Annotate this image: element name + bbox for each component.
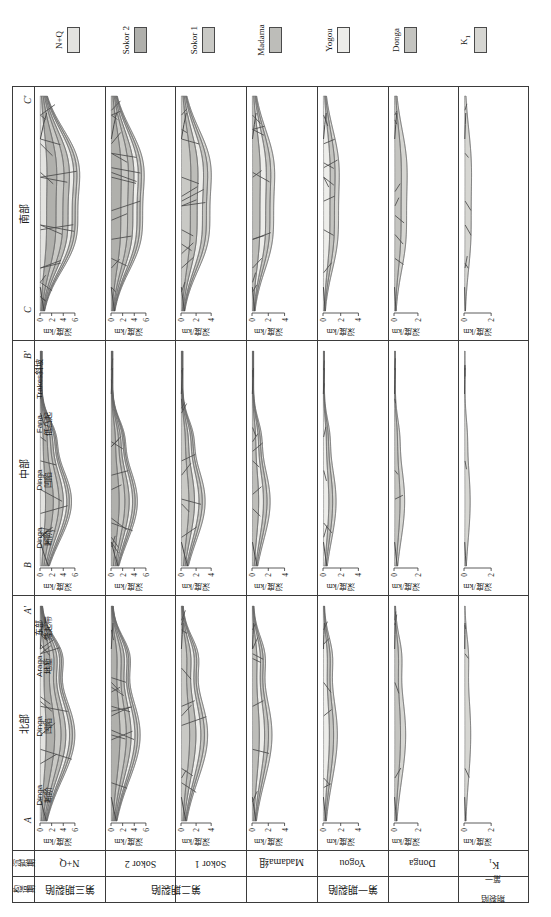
panel-svg: 024深度/km	[246, 86, 317, 341]
structural-label-middle-2: Fana低凸起	[36, 402, 54, 446]
depth-axis-title: 深度/km	[182, 327, 211, 337]
depth-axis-tick-label: 4	[208, 573, 217, 577]
depth-axis-title: 深度/km	[326, 837, 355, 847]
structural-label-middle-1: Dinga凹陷	[36, 458, 54, 502]
sed-period-label-4: Yogou	[317, 851, 388, 877]
panel-svg: 024深度/km	[317, 86, 388, 341]
panel-svg: 024深度/km	[317, 596, 388, 851]
legend-swatch-2	[202, 27, 215, 53]
corner-header-sedimentary: 沉积期	[12, 851, 34, 877]
sed-period-label-3: Madama组	[246, 851, 317, 877]
depth-axis-title: 深度/km	[253, 582, 282, 592]
legend-swatch-3	[269, 27, 282, 53]
depth-axis-tick-label: 6	[142, 318, 151, 322]
depth-axis-tick-label: 2	[118, 573, 127, 577]
legend-label-4: Yogou	[324, 28, 334, 52]
depth-axis-tick-label: 2	[414, 573, 423, 577]
legend-swatch-6	[474, 27, 487, 53]
panel-svg: 024深度/km	[317, 341, 388, 596]
legend-item-5: Donga	[391, 27, 417, 53]
depth-axis-tick-label: 2	[193, 828, 202, 832]
sed-period-label-0: N+Q	[34, 851, 105, 877]
depth-axis-tick-label: 0	[177, 573, 186, 577]
depth-axis-title: 深度/km	[463, 582, 492, 592]
legend-label-0: N+Q	[54, 31, 64, 49]
depth-axis-tick-label: 0	[36, 573, 45, 577]
depth-axis-tick-label: 2	[414, 828, 423, 832]
depth-axis-tick-label: 0	[390, 828, 399, 832]
depth-axis-title: 深度/km	[326, 327, 355, 337]
depth-axis-tick-label: 4	[130, 828, 139, 832]
depth-axis-title: 深度/km	[463, 837, 492, 847]
depth-axis-tick-label: 0	[248, 318, 257, 322]
depth-axis-title: 深度/km	[391, 837, 420, 847]
depth-axis-title: 深度/km	[113, 582, 142, 592]
panel-svg: 02深度/km	[388, 596, 459, 851]
depth-axis-tick-label: 2	[487, 573, 496, 577]
depth-axis-tick-label: 4	[281, 828, 290, 832]
panel-svg: 024深度/km	[175, 596, 246, 851]
panel-svg: 02深度/km	[458, 341, 529, 596]
depth-axis-tick-label: 2	[118, 318, 127, 322]
panel-middle-6: 02深度/km	[458, 341, 529, 596]
depth-axis-tick-label: 2	[48, 573, 57, 577]
structural-label-north-2: Araga地堑	[36, 644, 54, 688]
depth-axis-tick-label: 6	[142, 828, 151, 832]
depth-axis-tick-label: 0	[107, 318, 116, 322]
depth-axis-tick-label: 2	[487, 828, 496, 832]
tect-period-label-1: 第二期裂陷	[105, 877, 246, 903]
depth-axis-tick-label: 2	[48, 318, 57, 322]
depth-axis-tick-label: 2	[264, 828, 273, 832]
depth-axis-tick-label: 4	[281, 318, 290, 322]
legend-label-5: Donga	[391, 28, 401, 52]
panel-north-4: 024深度/km	[317, 596, 388, 851]
depth-axis-tick-label: 0	[36, 828, 45, 832]
depth-axis-tick-label: 2	[337, 828, 346, 832]
structural-label-middle-0: Dinga断阶	[36, 516, 54, 560]
depth-axis-tick-label: 6	[71, 573, 80, 577]
depth-axis-tick-label: 0	[248, 828, 257, 832]
panel-svg: 02深度/km	[458, 596, 529, 851]
depth-axis-tick-label: 6	[71, 828, 80, 832]
structural-label-north-3: 东部隆起带	[36, 606, 54, 650]
legend-swatch-4	[337, 27, 350, 53]
panel-south-2: 024深度/km	[175, 86, 246, 341]
depth-axis-title: 深度/km	[182, 582, 211, 592]
tect-period-label-3: 期裂陷第一	[458, 877, 529, 903]
depth-axis-tick-label: 4	[281, 573, 290, 577]
depth-axis-tick-label: 0	[248, 573, 257, 577]
depth-axis-tick-label: 2	[337, 573, 346, 577]
structural-label-north-1: Dinga凹陷	[36, 704, 54, 748]
panel-svg: 0246深度/km	[105, 596, 176, 851]
depth-axis-title: 深度/km	[42, 582, 71, 592]
geological-cross-section-figure: 0246深度/km0246深度/km024深度/km024深度/km024深度/…	[0, 0, 551, 917]
depth-axis-title: 深度/km	[253, 837, 282, 847]
depth-axis-tick-label: 0	[107, 828, 116, 832]
panel-svg: 024深度/km	[246, 596, 317, 851]
panel-south-1: 0246深度/km	[105, 86, 176, 341]
panel-south-3: 024深度/km	[246, 86, 317, 341]
depth-axis-tick-label: 2	[193, 573, 202, 577]
depth-axis-tick-label: 2	[414, 318, 423, 322]
section-label-end-north: A'	[23, 606, 33, 614]
depth-axis-title: 深度/km	[253, 327, 282, 337]
panel-middle-4: 024深度/km	[317, 341, 388, 596]
depth-axis-tick-label: 0	[390, 318, 399, 322]
depth-axis-tick-label: 0	[460, 573, 469, 577]
depth-axis-tick-label: 0	[319, 573, 328, 577]
legend-label-1: Sokor 2	[121, 26, 131, 54]
section-label-start-south: C	[23, 307, 33, 313]
panel-svg: 024深度/km	[175, 341, 246, 596]
section-label-start-north: A	[23, 817, 33, 823]
depth-axis-tick-label: 2	[118, 828, 127, 832]
depth-axis-tick-label: 4	[59, 828, 68, 832]
sed-period-label-5: Donga	[388, 851, 459, 877]
panel-svg: 0246深度/km	[105, 341, 176, 596]
structural-label-middle-3: Trakes斜坡	[36, 357, 45, 401]
depth-axis-tick-label: 0	[36, 318, 45, 322]
depth-axis-tick-label: 4	[354, 828, 363, 832]
depth-axis-title: 深度/km	[182, 837, 211, 847]
depth-axis-tick-label: 4	[59, 318, 68, 322]
depth-axis-title: 深度/km	[42, 837, 71, 847]
depth-axis-title: 深度/km	[463, 327, 492, 337]
